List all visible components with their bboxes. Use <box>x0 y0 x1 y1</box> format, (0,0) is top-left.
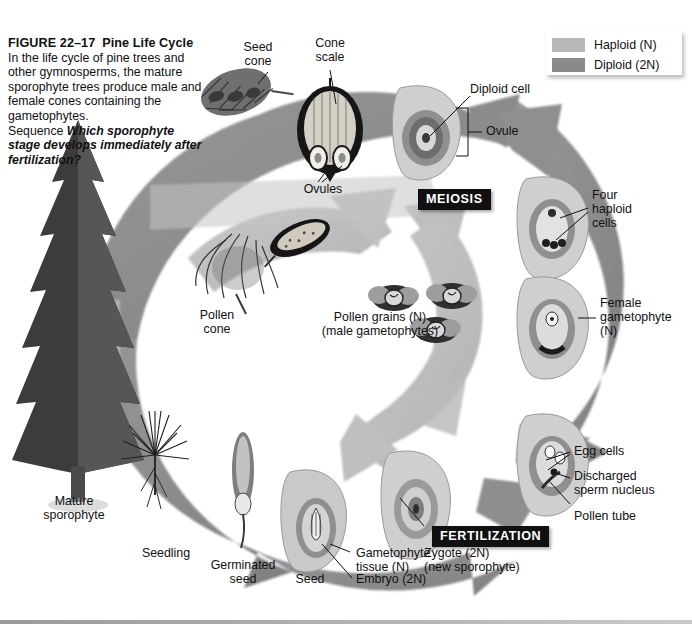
label-female-gametophyte: Female gametophyte (N) <box>600 296 672 339</box>
illustration-female-gametophyte <box>517 277 588 379</box>
label-mature-sporophyte: Mature sporophyte <box>20 494 128 522</box>
legend-label-diploid: Diploid (2N) <box>594 58 659 72</box>
label-germinated-seed: Germinated seed <box>196 558 290 586</box>
legend-swatch-haploid <box>552 38 585 52</box>
label-four-haploid-cells: Four haploid cells <box>592 188 632 231</box>
question-lead: Sequence <box>8 124 63 138</box>
caption-body: In the life cycle of pine trees and othe… <box>8 51 208 124</box>
label-seedling: Seedling <box>128 546 204 560</box>
label-seed-cone: Seed cone <box>228 40 288 68</box>
figure-pine-life-cycle: FIGURE 22–17 Pine Life Cycle In the life… <box>0 0 692 631</box>
figure-caption: FIGURE 22–17 Pine Life Cycle In the life… <box>8 36 208 167</box>
legend-item-diploid: Diploid (2N) <box>552 56 676 73</box>
label-embryo: Embryo (2N) <box>356 572 426 586</box>
label-ovule: Ovule <box>486 124 518 138</box>
label-discharged-sperm-nucleus: Discharged sperm nucleus <box>574 469 655 497</box>
illustration-ovule-diploid <box>392 86 460 180</box>
legend-swatch-diploid <box>552 58 585 72</box>
label-seed: Seed <box>286 572 334 586</box>
illustration-germinated-seed <box>232 432 254 548</box>
illustration-fertilization-ovule <box>517 414 588 516</box>
label-pollen-cone: Pollen cone <box>186 308 248 336</box>
bottom-rule <box>0 620 692 624</box>
figure-title: Pine Life Cycle <box>102 36 193 50</box>
banner-meiosis: MEIOSIS <box>418 189 491 210</box>
label-egg-cells: Egg cells <box>574 444 624 458</box>
label-zygote: Zygote (2N) (new sporophyte) <box>424 546 520 574</box>
label-pollen-tube: Pollen tube <box>574 509 636 523</box>
legend: Haploid (N) Diploid (2N) <box>546 31 682 75</box>
legend-label-haploid: Haploid (N) <box>594 38 657 52</box>
label-diploid-cell: Diploid cell <box>470 82 530 96</box>
banner-fertilization: FERTILIZATION <box>432 526 549 547</box>
figure-number: FIGURE 22–17 <box>8 36 95 50</box>
illustration-four-haploid-cells <box>517 177 588 279</box>
label-gametophyte-tissue: Gametophyte tissue (N) <box>356 546 430 574</box>
label-pollen-grains: Pollen grains (N) (male gametophytes) <box>300 310 460 338</box>
label-ovules: Ovules <box>288 182 358 196</box>
label-cone-scale: Cone scale <box>300 36 360 64</box>
legend-item-haploid: Haploid (N) <box>552 36 676 53</box>
illustration-seed <box>281 470 347 572</box>
